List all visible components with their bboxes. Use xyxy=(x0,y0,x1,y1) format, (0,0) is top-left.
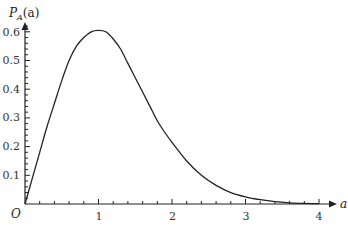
distribution-curve xyxy=(25,30,319,204)
x-tick-label-2: 2 xyxy=(169,210,176,223)
origin-label: O xyxy=(11,207,21,221)
y-tick-label-0.3: 0.3 xyxy=(3,111,21,124)
y-tick-label-0.5: 0.5 xyxy=(3,54,21,67)
y-tick-label-0.6: 0.6 xyxy=(3,26,21,39)
axis-ticks xyxy=(25,26,319,204)
x-tick-label-4: 4 xyxy=(316,210,323,223)
y-axis-label: PA(a) xyxy=(8,6,39,22)
y-tick-label-0.1: 0.1 xyxy=(3,169,21,182)
y-tick-label-0.2: 0.2 xyxy=(3,140,21,153)
x-tick-label-3: 3 xyxy=(243,210,250,223)
chart: 1 2 3 4 0.1 0.2 0.3 0.4 0.5 0.6 O a PA(a… xyxy=(0,0,348,228)
x-axis-label: a xyxy=(340,197,347,211)
x-tick-label-1: 1 xyxy=(96,210,103,223)
y-tick-label-0.4: 0.4 xyxy=(3,83,21,96)
x-axis-arrow-icon xyxy=(329,201,337,208)
